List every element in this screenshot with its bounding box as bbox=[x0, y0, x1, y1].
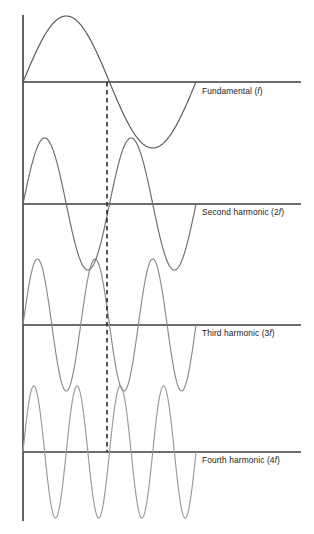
label-fourth-harmonic-prefix: Fourth harmonic (4 bbox=[202, 455, 275, 465]
label-second-harmonic-prefix: Second harmonic (2 bbox=[202, 207, 279, 217]
panel-fundamental bbox=[23, 16, 301, 148]
label-fourth-harmonic-suffix: ) bbox=[277, 455, 280, 465]
panel-third-harmonic bbox=[23, 259, 301, 391]
label-third-harmonic-suffix: ) bbox=[272, 328, 275, 338]
label-fourth-harmonic: Fourth harmonic (4f) bbox=[202, 455, 280, 465]
label-second-harmonic: Second harmonic (2f) bbox=[202, 207, 284, 217]
panel-fourth-harmonic bbox=[23, 386, 301, 518]
label-third-harmonic-prefix: Third harmonic (3 bbox=[202, 328, 269, 338]
label-fundamental: Fundamental (f) bbox=[202, 86, 263, 96]
panel-second-harmonic bbox=[23, 138, 301, 270]
label-fundamental-prefix: Fundamental ( bbox=[202, 86, 257, 96]
label-fundamental-suffix: ) bbox=[260, 86, 263, 96]
label-second-harmonic-suffix: ) bbox=[281, 207, 284, 217]
harmonics-figure: Fundamental (f) Second harmonic (2f) Thi… bbox=[0, 0, 314, 534]
label-third-harmonic: Third harmonic (3f) bbox=[202, 328, 275, 338]
harmonics-plot bbox=[0, 0, 314, 534]
